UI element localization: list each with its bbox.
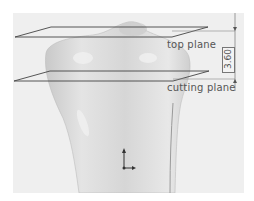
- cutting-plane-label: cutting plane: [167, 82, 236, 93]
- top-plane-label: top plane: [167, 39, 216, 50]
- cad-viewport[interactable]: top plane cutting plane 3.60: [13, 13, 244, 193]
- dimension-value: 3.60: [223, 47, 233, 71]
- dimension-box[interactable]: 3.60: [222, 47, 235, 73]
